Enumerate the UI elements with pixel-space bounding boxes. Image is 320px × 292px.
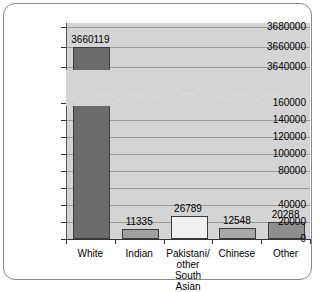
y-axis-tick-label: 120000	[249, 132, 311, 142]
y-axis-tick-label: 80000	[249, 166, 311, 176]
x-axis-tick-mark	[115, 239, 116, 244]
y-axis-tick-mark	[61, 67, 66, 68]
y-axis-tick-label: 3680000	[249, 22, 311, 32]
y-axis-tick-mark	[61, 205, 66, 206]
category-label: White	[66, 248, 115, 259]
y-axis-tick-label: 100000	[249, 149, 311, 159]
bar-indian[interactable]	[122, 229, 159, 239]
y-axis-tick-mark	[61, 154, 66, 155]
y-axis-tick-mark	[61, 27, 66, 28]
y-axis-tick-label: 3640000	[249, 62, 311, 72]
bar-value-label: 3660119	[50, 34, 130, 45]
bar-value-label: 20288	[246, 209, 320, 220]
x-axis-tick-mark	[164, 239, 165, 244]
y-axis-tick-label: 160000	[249, 98, 311, 108]
x-axis-tick-mark	[66, 239, 67, 244]
bar-value-label: 26789	[148, 203, 228, 214]
bar-value-label: 11335	[99, 216, 179, 227]
bar-white[interactable]	[73, 47, 110, 85]
category-label: Indian	[115, 248, 164, 259]
y-axis-tick-label: 140000	[249, 115, 311, 125]
y-axis-tick-mark	[61, 222, 66, 223]
x-axis-line	[66, 239, 310, 240]
y-axis-tick-mark	[61, 103, 66, 104]
y-axis-tick-mark	[61, 188, 66, 189]
y-axis-tick-mark	[61, 47, 66, 48]
y-axis-tick-mark	[61, 120, 66, 121]
x-axis-tick-mark	[310, 239, 311, 244]
x-axis-tick-mark	[261, 239, 262, 244]
chart-frame: 0200004000080000100000120000140000160000…	[3, 3, 312, 280]
y-axis-tick-label: 3660000	[249, 42, 311, 52]
category-label: Other	[261, 248, 310, 259]
category-label: Chinese	[212, 248, 261, 259]
y-axis-tick-mark	[61, 171, 66, 172]
category-label: Pakistani/other SouthAsian	[164, 248, 213, 292]
y-axis-tick-mark	[61, 137, 66, 138]
x-axis-tick-mark	[212, 239, 213, 244]
